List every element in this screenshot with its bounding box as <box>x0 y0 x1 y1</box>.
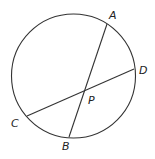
diagram: A B C D P <box>0 0 155 159</box>
label-a: A <box>108 9 117 22</box>
label-p: P <box>88 94 95 107</box>
chord-cd <box>27 69 134 116</box>
label-c: C <box>11 117 19 130</box>
circle-chords-figure: A B C D P <box>0 0 155 159</box>
chord-ab <box>69 24 107 137</box>
label-b: B <box>62 140 70 153</box>
label-d: D <box>139 64 147 77</box>
